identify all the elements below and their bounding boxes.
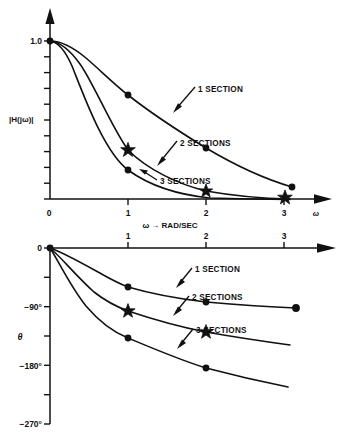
phase-curve-3-sections <box>50 248 288 387</box>
magnitude-annotation-2-sections-arrow-icon <box>157 156 166 166</box>
phase-y-tick-label-minus90: −90° <box>24 302 42 312</box>
magnitude-markers-1-section <box>47 38 296 191</box>
phase-y-tick-label-minus270: −270° <box>19 419 42 429</box>
phase-x-tick-label-1: 1 <box>126 231 131 241</box>
phase-annotation-3-sections-label: 3 SECTIONS <box>196 326 247 335</box>
magnitude-x-tick-label-3: 3 <box>282 208 287 218</box>
phase-annotation-1-section-label: 1 SECTION <box>195 265 240 274</box>
phase-y-tick-label-0: 0 <box>37 243 42 253</box>
magnitude-markers-3-sections <box>125 167 132 174</box>
phase-annotation-1-section-arrow-icon <box>176 279 185 288</box>
magnitude-y-ticks <box>44 41 50 199</box>
phase-curve-1-section <box>50 248 296 308</box>
phase-y-tick-label-minus180: −180° <box>19 361 42 371</box>
magnitude-x-tick-label-2: 2 <box>204 208 209 218</box>
magnitude-annotation-1-section-arrow-icon <box>173 103 182 113</box>
magnitude-curve-1-section <box>50 41 292 187</box>
phase-y-axis-label: θ <box>17 332 22 342</box>
phase-markers-3-sections <box>125 335 210 372</box>
magnitude-annotation-2-sections: 2 SECTIONS <box>157 139 231 166</box>
magnitude-x-tick-label-1: 1 <box>126 208 131 218</box>
magnitude-curve-3-sections <box>50 41 290 199</box>
phase-annotation-2-sections-arrow-icon <box>173 307 182 316</box>
magnitude-x-axis-end-label: ω <box>313 209 319 218</box>
magnitude-chart: 1.0 |H(jω)| 0 1 2 3 ω ω → RAD/SEC <box>9 8 332 230</box>
magnitude-x-axis-arrow-icon <box>314 194 332 204</box>
magnitude-annotation-1-section: 1 SECTION <box>173 85 243 113</box>
frequency-response-figure: 1.0 |H(jω)| 0 1 2 3 ω ω → RAD/SEC <box>0 0 349 439</box>
phase-y-ticks <box>44 248 50 424</box>
magnitude-annotation-2-sections-label: 2 SECTIONS <box>180 139 231 148</box>
magnitude-y-tick-label-1: 1.0 <box>30 36 42 46</box>
phase-x-axis-arrow-icon <box>317 243 336 253</box>
magnitude-y-axis-arrow-icon <box>45 8 54 24</box>
phase-x-tick-label-3: 3 <box>282 231 287 241</box>
phase-chart: 0 −90° −180° −270° θ 1 2 3 <box>17 231 336 429</box>
phase-annotation-2-sections-label: 2 SECTIONS <box>192 293 243 302</box>
magnitude-annotation-3-sections-label: 3 SECTIONS <box>160 177 211 186</box>
magnitude-curve-2-sections <box>50 41 290 199</box>
phase-x-tick-label-2: 2 <box>204 231 209 241</box>
phase-annotation-1-section: 1 SECTION <box>176 265 240 288</box>
magnitude-annotation-1-section-label: 1 SECTION <box>198 85 243 94</box>
magnitude-x-tick-label-0: 0 <box>47 208 52 218</box>
magnitude-y-axis-label: |H(jω)| <box>9 115 34 124</box>
phase-markers-1-section <box>47 245 300 312</box>
magnitude-x-axis-label: ω → RAD/SEC <box>142 221 197 230</box>
phase-x-ticks <box>128 242 284 248</box>
phase-annotation-3-sections-arrow-icon <box>177 340 186 349</box>
